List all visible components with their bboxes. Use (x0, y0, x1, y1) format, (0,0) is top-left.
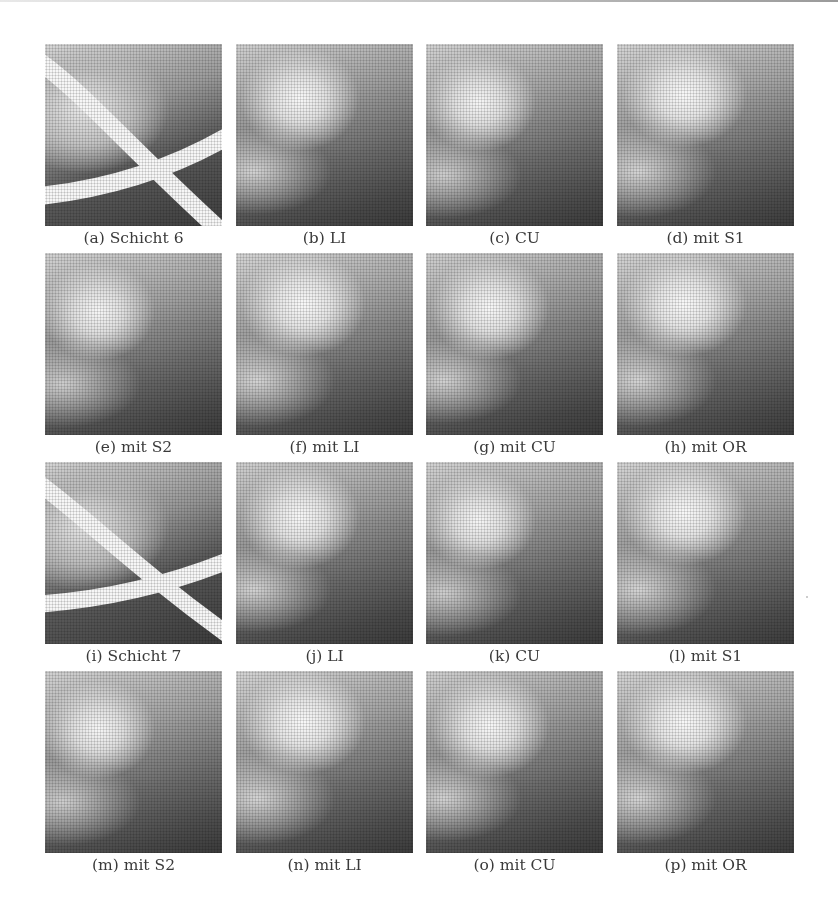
subfigure-caption: (j) LI (216, 646, 433, 666)
top-rule (0, 0, 838, 2)
halftone-overlay (45, 671, 222, 853)
halftone-overlay (236, 671, 413, 853)
figure-row-3: (i) Schicht 7 (j) LI (k) CU (l) mit S1 (45, 462, 795, 671)
subfigure-f: (f) mit LI (236, 253, 413, 462)
subfigure-caption: (l) mit S1 (597, 646, 814, 666)
image-panel-schicht-7 (45, 462, 222, 644)
subfigure-caption: (b) LI (216, 228, 433, 248)
halftone-overlay (617, 462, 794, 644)
subfigure-caption: (m) mit S2 (25, 855, 242, 875)
subfigure-caption: (o) mit CU (406, 855, 623, 875)
subfigure-m: (m) mit S2 (45, 671, 222, 880)
subfigure-caption: (a) Schicht 6 (25, 228, 242, 248)
subfigure-k: (k) CU (426, 462, 603, 671)
subfigure-n: (n) mit LI (236, 671, 413, 880)
subfigure-caption: (c) CU (406, 228, 623, 248)
subfigure-b: (b) LI (236, 44, 413, 253)
subfigure-caption: (f) mit LI (216, 437, 433, 457)
image-panel-mit-li (236, 671, 413, 853)
image-panel-cu (426, 44, 603, 226)
image-panel-mit-s2 (45, 253, 222, 435)
halftone-overlay (617, 671, 794, 853)
halftone-overlay (426, 44, 603, 226)
subfigure-o: (o) mit CU (426, 671, 603, 880)
subfigure-c: (c) CU (426, 44, 603, 253)
subfigure-caption: (e) mit S2 (25, 437, 242, 457)
subfigure-caption: (n) mit LI (216, 855, 433, 875)
subfigure-i: (i) Schicht 7 (45, 462, 222, 671)
subfigure-d: (d) mit S1 (617, 44, 794, 253)
halftone-overlay (426, 671, 603, 853)
image-panel-mit-s1 (617, 44, 794, 226)
margin-mark (806, 596, 808, 598)
subfigure-a: (a) Schicht 6 (45, 44, 222, 253)
halftone-overlay (45, 253, 222, 435)
image-panel-schicht-6 (45, 44, 222, 226)
image-panel-mit-or (617, 671, 794, 853)
image-panel-mit-cu (426, 253, 603, 435)
image-panel-cu (426, 462, 603, 644)
image-panel-mit-li (236, 253, 413, 435)
subfigure-h: (h) mit OR (617, 253, 794, 462)
subfigure-caption: (p) mit OR (597, 855, 814, 875)
halftone-overlay (617, 253, 794, 435)
image-panel-mit-s1 (617, 462, 794, 644)
halftone-overlay (45, 44, 222, 226)
halftone-overlay (617, 44, 794, 226)
halftone-overlay (236, 462, 413, 644)
subfigure-caption: (d) mit S1 (597, 228, 814, 248)
image-panel-mit-or (617, 253, 794, 435)
halftone-overlay (426, 253, 603, 435)
figure-row-1: (a) Schicht 6 (b) LI (c) CU (d) mit S1 (45, 44, 795, 253)
subfigure-caption: (i) Schicht 7 (25, 646, 242, 666)
image-panel-mit-s2 (45, 671, 222, 853)
subfigure-j: (j) LI (236, 462, 413, 671)
figure-row-4: (m) mit S2 (n) mit LI (o) mit CU (p) mit… (45, 671, 795, 880)
halftone-overlay (236, 44, 413, 226)
subfigure-caption: (g) mit CU (406, 437, 623, 457)
halftone-overlay (45, 462, 222, 644)
subfigure-g: (g) mit CU (426, 253, 603, 462)
image-panel-mit-cu (426, 671, 603, 853)
subfigure-p: (p) mit OR (617, 671, 794, 880)
figure-row-2: (e) mit S2 (f) mit LI (g) mit CU (h) mit… (45, 253, 795, 462)
halftone-overlay (426, 462, 603, 644)
image-panel-li (236, 44, 413, 226)
subfigure-caption: (h) mit OR (597, 437, 814, 457)
halftone-overlay (236, 253, 413, 435)
subfigure-l: (l) mit S1 (617, 462, 794, 671)
subfigure-e: (e) mit S2 (45, 253, 222, 462)
image-panel-li (236, 462, 413, 644)
subfigure-caption: (k) CU (406, 646, 623, 666)
